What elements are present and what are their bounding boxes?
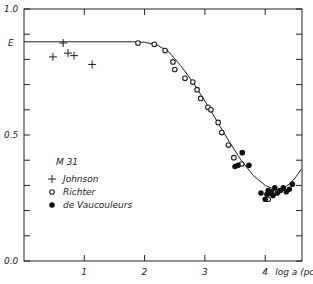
legend-marker-filled-circle bbox=[49, 202, 55, 208]
data-point-open-circle bbox=[163, 48, 168, 53]
data-point-open-circle bbox=[198, 96, 203, 101]
data-point-open-circle bbox=[191, 80, 196, 85]
x-tick-label: 2 bbox=[142, 267, 148, 277]
legend: M 31JohnsonRichterde Vaucouleurs bbox=[48, 157, 133, 210]
data-point-plus bbox=[49, 53, 57, 61]
y-reference-label: E bbox=[8, 38, 14, 48]
data-point-open-circle bbox=[195, 87, 200, 92]
data-point-open-circle bbox=[226, 143, 231, 148]
y-tick-label: 1.0 bbox=[4, 4, 19, 14]
data-point-filled-circle bbox=[264, 191, 270, 197]
legend-marker-plus bbox=[48, 175, 56, 183]
data-point-filled-circle bbox=[290, 181, 296, 187]
data-point-open-circle bbox=[216, 120, 221, 125]
chart: 0.00.51.01234log a (pc)E M 31JohnsonRich… bbox=[0, 0, 313, 284]
data-point-open-circle bbox=[232, 155, 237, 160]
legend-label: Richter bbox=[63, 187, 96, 197]
y-tick-label: 0.5 bbox=[4, 130, 19, 140]
plot-frame-rect bbox=[24, 9, 302, 261]
data-point-filled-circle bbox=[246, 162, 252, 168]
plot-frame bbox=[24, 9, 302, 261]
legend-marker-open-circle bbox=[50, 190, 55, 195]
data-point-plus bbox=[88, 60, 96, 68]
data-point-open-circle bbox=[183, 76, 188, 81]
data-point-filled-circle bbox=[258, 190, 264, 196]
legend-label: Johnson bbox=[61, 174, 99, 184]
x-tick-label: 1 bbox=[81, 267, 87, 277]
data-point-filled-circle bbox=[287, 186, 293, 192]
data-point-open-circle bbox=[136, 41, 141, 46]
y-tick-label: 0.0 bbox=[4, 256, 19, 266]
data-point-open-circle bbox=[171, 60, 176, 65]
data-point-open-circle bbox=[209, 108, 214, 113]
legend-label: de Vaucouleurs bbox=[63, 200, 133, 210]
data-point-open-circle bbox=[172, 67, 177, 72]
x-axis-label: log a (pc) bbox=[275, 267, 313, 277]
fit-curve bbox=[24, 42, 301, 189]
data-point-open-circle bbox=[219, 130, 224, 135]
data-point-open-circle bbox=[152, 42, 157, 47]
x-tick-label: 4 bbox=[262, 267, 268, 277]
data-point-plus bbox=[59, 39, 67, 47]
data-point-filled-circle bbox=[235, 162, 241, 168]
axis-labels: 0.00.51.01234log a (pc)E bbox=[4, 4, 313, 277]
legend-title: M 31 bbox=[56, 157, 78, 167]
data-point-filled-circle bbox=[262, 196, 268, 202]
fit-curve-path bbox=[24, 42, 301, 189]
x-tick-label: 3 bbox=[202, 267, 208, 277]
data-point-filled-circle bbox=[239, 150, 245, 156]
axis-ticks bbox=[24, 9, 302, 261]
